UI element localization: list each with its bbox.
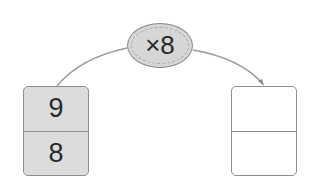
output-bottom-cell[interactable] bbox=[232, 132, 296, 176]
input-top-cell: 9 bbox=[24, 87, 88, 132]
output-box bbox=[231, 86, 297, 176]
input-bottom-cell: 8 bbox=[24, 132, 88, 176]
input-connector bbox=[57, 48, 127, 86]
output-connector bbox=[193, 50, 263, 84]
input-box: 9 8 bbox=[23, 86, 89, 176]
operator-oval: ×8 bbox=[127, 23, 193, 68]
operator-label: ×8 bbox=[145, 30, 175, 61]
output-top-cell[interactable] bbox=[232, 87, 296, 132]
